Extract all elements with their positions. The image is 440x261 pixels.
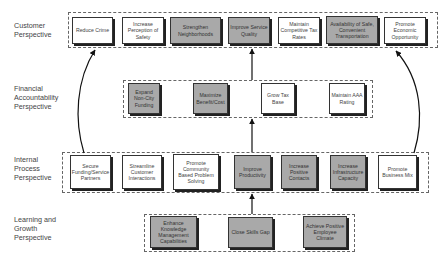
objective-maintain-aaa-rating[interactable]: Maintain AAA Rating — [329, 83, 365, 114]
objective-streamline-customer-interactions[interactable]: Streamline Customer Interactions — [122, 155, 162, 189]
label-line: Perspective — [14, 233, 56, 242]
label-line: Financial — [14, 84, 58, 93]
objective-expand-non-city-funding[interactable]: Expand Non-City Funding — [128, 83, 160, 114]
perspective-label-customer: Customer Perspective — [14, 21, 52, 39]
arrow-curved-right — [396, 51, 420, 153]
objective-enhance-knowledge-management[interactable]: Enhance Knowledge Management Capabilitie… — [150, 216, 197, 248]
objective-increase-positive-contacts[interactable]: Increase Positive Contacts — [281, 155, 317, 189]
arrow-curved-left — [78, 50, 95, 153]
perspective-label-financial: Financial Accountability Perspective — [14, 84, 58, 111]
objective-close-skills-gap[interactable]: Close Skills Gap — [228, 217, 273, 248]
objective-availability-safe-transportation[interactable]: Availability of Safe, Convenient Transpo… — [326, 16, 378, 44]
objective-maximize-benefit-cost[interactable]: Maximize Benefit/Cost — [193, 83, 228, 114]
objective-achieve-positive-employee-climate[interactable]: Achieve Positive Employee Climate — [303, 216, 347, 248]
perspective-label-internal: Internal Process Perspective — [14, 155, 52, 182]
objective-promote-economic-opportunity[interactable]: Promote Economic Opportunity — [384, 17, 426, 44]
label-line: Learning and — [14, 215, 56, 224]
objective-reduce-crime[interactable]: Reduce Crime — [72, 17, 113, 44]
objective-grow-tax-base[interactable]: Grow Tax Base — [261, 83, 295, 114]
objective-improve-service-quality[interactable]: Improve Service Quality — [228, 17, 270, 44]
perspective-label-learning: Learning and Growth Perspective — [14, 215, 56, 242]
label-line: Accountability — [14, 93, 58, 102]
label-line: Perspective — [14, 30, 52, 39]
objective-promote-community-problem-solving[interactable]: Promote Community Based Problem Solving — [173, 154, 219, 190]
label-line: Process — [14, 164, 52, 173]
objective-increase-infrastructure-capacity[interactable]: Increase Infrastructure Capacity — [330, 155, 366, 189]
label-line: Perspective — [14, 173, 52, 182]
label-line: Perspective — [14, 102, 58, 111]
objective-increase-perception-of-safety[interactable]: Increase Perception of Safety — [122, 17, 164, 44]
label-line: Customer — [14, 21, 52, 30]
objective-maintain-competitive-tax-rates[interactable]: Maintain Competitive Tax Rates — [278, 17, 320, 44]
label-line: Growth — [14, 224, 56, 233]
objective-strengthen-neighborhoods[interactable]: Strengthen Neighborhoods — [170, 17, 221, 44]
objective-improve-productivity[interactable]: Improve Productivity — [234, 155, 271, 189]
objective-promote-business-mix[interactable]: Promote Business Mix — [378, 155, 417, 189]
label-line: Internal — [14, 155, 52, 164]
objective-secure-funding-service-partners[interactable]: Secure Funding/Service Partners — [70, 155, 111, 189]
